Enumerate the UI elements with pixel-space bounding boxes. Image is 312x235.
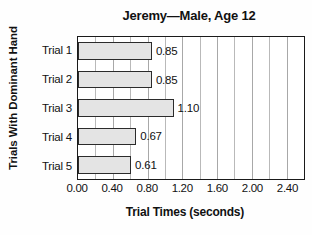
chart-title: Jeremy—Male, Age 12 [70, 8, 308, 23]
bar-value-label: 1.10 [178, 102, 200, 114]
y-axis-title-container: Trials With Dominant Hand [0, 0, 26, 200]
x-axis-tick-labels: 0.000.400.801.201.602.002.40 [77, 182, 305, 198]
x-axis-tick-label: 1.60 [207, 182, 228, 194]
y-axis-title: Trials With Dominant Hand [7, 18, 19, 178]
x-axis-tick-label: 1.20 [172, 182, 193, 194]
x-axis-title: Trial Times (seconds) [60, 205, 310, 219]
x-axis-tick-label: 0.00 [66, 182, 87, 194]
x-axis-tick-label: 2.40 [277, 182, 298, 194]
y-axis-category-label: Trial 3 [26, 94, 76, 123]
bar-band: 0.85 [78, 65, 304, 93]
x-axis-tick-label: 0.40 [101, 182, 122, 194]
bar-band: 0.67 [78, 122, 304, 150]
x-axis-tick-label: 0.80 [137, 182, 158, 194]
y-axis-category-label: Trial 2 [26, 65, 76, 94]
y-axis-category-label: Trial 4 [26, 122, 76, 151]
bar-band: 1.10 [78, 94, 304, 122]
bar-band: 0.85 [78, 37, 304, 65]
bar: 0.67 [78, 128, 136, 146]
bar-value-label: 0.85 [156, 45, 178, 57]
bar: 1.10 [78, 99, 174, 117]
bar: 0.85 [78, 71, 152, 89]
bar: 0.61 [78, 156, 131, 174]
x-axis-tick-label: 2.00 [242, 182, 263, 194]
y-axis-category-label: Trial 1 [26, 36, 76, 65]
bar-value-label: 0.61 [135, 159, 157, 171]
bar-value-label: 0.85 [156, 74, 178, 86]
plot-area: 0.850.851.100.670.61 [77, 36, 305, 180]
bar-band: 0.61 [78, 151, 304, 179]
bar-series: 0.850.851.100.670.61 [78, 37, 304, 179]
bar: 0.85 [78, 42, 152, 60]
y-axis-category-label: Trial 5 [26, 151, 76, 180]
bar-value-label: 0.67 [140, 130, 162, 142]
bar-chart-figure: Jeremy—Male, Age 12 Trials With Dominant… [0, 0, 312, 235]
y-axis-category-labels: Trial 1Trial 2Trial 3Trial 4Trial 5 [26, 36, 76, 180]
